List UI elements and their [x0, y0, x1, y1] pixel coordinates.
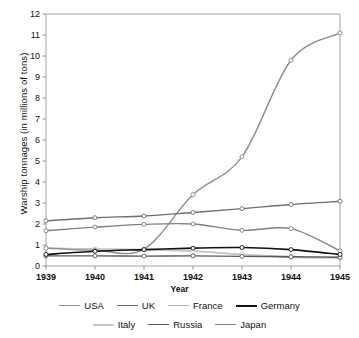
legend-item-uk[interactable]: UK [117, 300, 155, 311]
legend-swatch-icon [148, 324, 169, 325]
y-tick-label: 2 [14, 219, 40, 229]
data-point [142, 222, 146, 226]
x-tick-label: 1939 [26, 272, 66, 282]
legend-swatch-icon [117, 305, 138, 306]
x-tick-label: 1940 [75, 272, 115, 282]
data-point [240, 207, 244, 211]
y-tick-label: 7 [14, 114, 40, 124]
legend-item-russia[interactable]: Russia [148, 319, 202, 330]
data-point [93, 249, 97, 253]
data-point [191, 222, 195, 226]
data-point [289, 255, 293, 259]
y-tick-label: 11 [14, 30, 40, 40]
legend-label: UK [142, 300, 155, 311]
chart-svg [0, 0, 359, 300]
series-usa [44, 31, 342, 254]
y-tick-label: 0 [14, 261, 40, 271]
legend-label: Italy [118, 319, 135, 330]
legend-label: Russia [173, 319, 202, 330]
legend-label: Japan [240, 319, 266, 330]
series-russia [44, 254, 342, 259]
data-point [142, 248, 146, 252]
data-point [338, 199, 342, 203]
x-tick-label: 1942 [173, 272, 213, 282]
y-tick-label: 9 [14, 72, 40, 82]
x-tick-label: 1945 [320, 272, 359, 282]
data-point [44, 246, 48, 250]
legend-label: Germany [261, 300, 300, 311]
y-tick-label: 1 [14, 240, 40, 250]
y-tick-label: 8 [14, 93, 40, 103]
data-point [289, 227, 293, 231]
data-point [142, 254, 146, 258]
data-point [44, 229, 48, 233]
legend-item-france[interactable]: France [168, 300, 223, 311]
legend-row: ItalyRussiaJapan [0, 315, 359, 334]
chart-legend: USAUKFranceGermanyItalyRussiaJapan [0, 296, 359, 334]
y-tick-label: 6 [14, 135, 40, 145]
legend-swatch-icon [93, 324, 114, 326]
x-tick-label: 1941 [124, 272, 164, 282]
y-tick-label: 3 [14, 198, 40, 208]
data-point [240, 155, 244, 159]
data-point [44, 219, 48, 223]
data-point [240, 254, 244, 258]
y-tick-label: 10 [14, 51, 40, 61]
legend-item-usa[interactable]: USA [59, 300, 104, 311]
data-point [289, 58, 293, 62]
data-point [191, 210, 195, 214]
x-axis-title: Year [0, 284, 359, 294]
legend-row: USAUKFranceGermany [0, 296, 359, 315]
legend-item-germany[interactable]: Germany [236, 300, 300, 311]
legend-swatch-icon [236, 305, 257, 307]
legend-swatch-icon [215, 324, 236, 325]
data-point [289, 202, 293, 206]
data-point [289, 248, 293, 252]
data-point [191, 254, 195, 258]
plot-frame [46, 14, 340, 266]
data-point [142, 214, 146, 218]
data-point [93, 254, 97, 258]
legend-label: USA [84, 300, 104, 311]
y-tick-label: 5 [14, 156, 40, 166]
legend-item-japan[interactable]: Japan [215, 319, 266, 330]
data-point [93, 216, 97, 220]
data-point [338, 252, 342, 256]
x-tick-label: 1943 [222, 272, 262, 282]
legend-swatch-icon [59, 305, 80, 306]
data-point [44, 252, 48, 256]
legend-item-italy[interactable]: Italy [93, 319, 135, 330]
series-uk [44, 199, 342, 223]
plot-area: Warship tonnages (in millions of tons) 1… [0, 0, 359, 300]
y-tick-label: 4 [14, 177, 40, 187]
data-point [93, 225, 97, 229]
data-point [240, 228, 244, 232]
data-point [338, 31, 342, 35]
data-point [240, 246, 244, 250]
series-line [46, 33, 340, 254]
data-point [191, 246, 195, 250]
legend-label: France [193, 300, 223, 311]
legend-swatch-icon [168, 305, 189, 306]
data-point [191, 193, 195, 197]
y-tick-label: 12 [14, 9, 40, 19]
warship-tonnage-line-chart: Warship tonnages (in millions of tons) 1… [0, 0, 359, 338]
x-tick-label: 1944 [271, 272, 311, 282]
